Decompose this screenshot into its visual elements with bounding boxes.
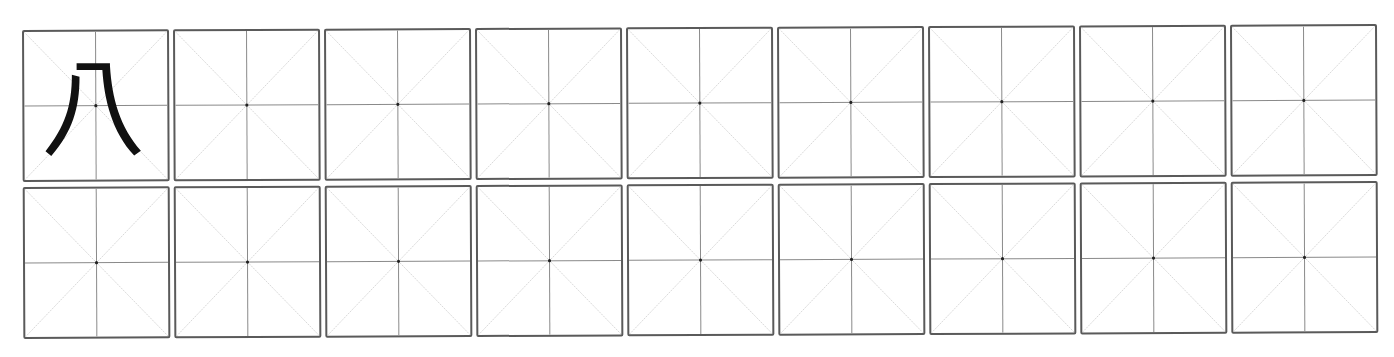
mi-grid-guides-icon — [478, 186, 622, 335]
mi-grid-guides-icon — [628, 29, 772, 178]
practice-cell[interactable] — [476, 184, 624, 337]
practice-cell[interactable] — [1080, 182, 1228, 335]
mi-grid-guides-icon — [930, 27, 1074, 176]
practice-cell[interactable] — [325, 185, 473, 338]
practice-cell[interactable] — [777, 26, 925, 179]
practice-cell[interactable] — [23, 186, 171, 339]
grid-row-2 — [23, 181, 1384, 341]
practice-cell[interactable] — [475, 27, 623, 180]
practice-cell[interactable] — [626, 27, 774, 180]
mi-grid-guides-icon — [327, 187, 471, 336]
mi-grid-guides-icon — [780, 185, 924, 334]
practice-cell[interactable] — [173, 29, 321, 182]
practice-cell[interactable] — [1230, 24, 1378, 177]
practice-cell[interactable] — [22, 29, 170, 182]
practice-cell[interactable] — [929, 182, 1077, 335]
practice-cell[interactable] — [928, 25, 1076, 178]
mi-grid-guides-icon — [779, 28, 923, 177]
mi-grid-guides-icon — [25, 188, 169, 337]
model-character-glyph — [24, 31, 168, 180]
mi-grid-guides-icon — [1232, 26, 1376, 175]
mi-grid-guides-icon — [176, 188, 320, 337]
mi-grid-guides-icon — [1082, 184, 1226, 333]
mi-grid-guides-icon — [326, 30, 470, 179]
mi-grid-guides-icon — [477, 29, 621, 178]
practice-cell[interactable] — [778, 183, 926, 336]
practice-cell[interactable] — [1231, 181, 1379, 334]
practice-cell[interactable] — [324, 28, 472, 181]
mi-grid-guides-icon — [629, 186, 773, 335]
mi-grid-guides-icon — [1081, 27, 1225, 176]
mi-grid-guides-icon — [931, 184, 1075, 333]
mi-grid-guides-icon — [175, 31, 319, 180]
practice-cell[interactable] — [627, 184, 775, 337]
practice-cell[interactable] — [174, 186, 322, 339]
grid-row-1 — [22, 24, 1383, 184]
practice-cell[interactable] — [1079, 25, 1227, 178]
practice-grid-sheet — [22, 21, 1383, 343]
mi-grid-guides-icon — [1233, 183, 1377, 332]
